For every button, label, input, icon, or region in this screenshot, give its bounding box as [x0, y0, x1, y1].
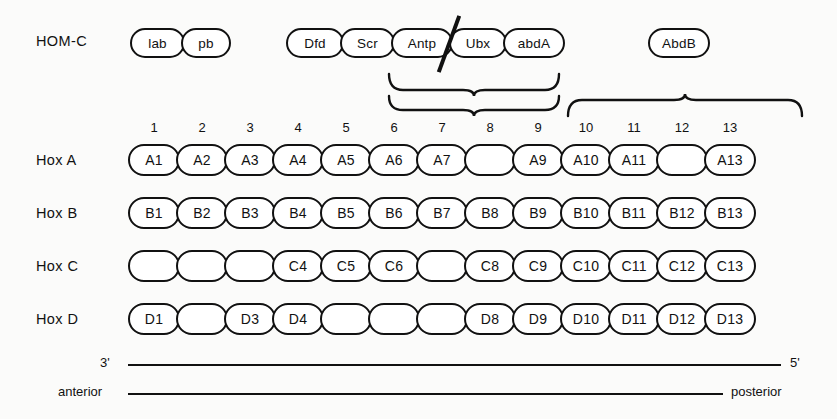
hox-c-gene-C5: C5: [320, 250, 372, 282]
hox-a-gene-A9: A9: [512, 144, 564, 176]
brace-homc-central-up: [387, 72, 562, 94]
hox-b-gene-B6: B6: [368, 197, 420, 229]
hox-d-gene-empty-5: [320, 303, 372, 335]
row-label-hoxc: Hox C: [36, 258, 78, 274]
paralog-number-11: 11: [619, 120, 649, 135]
hox-d-gene-D11: D11: [608, 303, 660, 335]
homc-gene-abda: abdA: [503, 28, 565, 58]
hox-d-row: D1D3D4D8D9D10D11D12D13: [128, 302, 752, 336]
paralog-number-5: 5: [331, 120, 361, 135]
hox-c-gene-empty-1: [128, 250, 180, 282]
hox-a-gene-A5: A5: [320, 144, 372, 176]
homc-gene-dfd: Dfd: [286, 28, 344, 58]
hox-b-gene-B1: B1: [128, 197, 180, 229]
hox-a-gene-A4: A4: [272, 144, 324, 176]
hox-c-gene-C13: C13: [704, 250, 756, 282]
hox-a-gene-A13: A13: [704, 144, 756, 176]
hox-d-gene-D1: D1: [128, 303, 180, 335]
hox-b-gene-B7: B7: [416, 197, 468, 229]
hox-d-gene-empty-6: [368, 303, 420, 335]
hox-b-gene-B9: B9: [512, 197, 564, 229]
paralog-number-9: 9: [523, 120, 553, 135]
paralog-number-13: 13: [715, 120, 745, 135]
hox-d-gene-D13: D13: [704, 303, 756, 335]
hox-c-gene-C11: C11: [608, 250, 660, 282]
paralog-number-7: 7: [427, 120, 457, 135]
hox-b-gene-B5: B5: [320, 197, 372, 229]
homc-gene-lab: lab: [130, 28, 185, 58]
paralog-number-2: 2: [187, 120, 217, 135]
hox-a-gene-empty-8: [464, 144, 516, 176]
hox-c-gene-C4: C4: [272, 250, 324, 282]
hox-b-row: B1B2B3B4B5B6B7B8B9B10B11B12B13: [128, 196, 752, 230]
row-label-homc: HOM-C: [36, 33, 87, 49]
hox-b-gene-B10: B10: [560, 197, 612, 229]
hox-d-gene-D4: D4: [272, 303, 324, 335]
axis-line-body: [128, 393, 723, 395]
paralog-number-12: 12: [667, 120, 697, 135]
hox-b-gene-B4: B4: [272, 197, 324, 229]
axis-label-posterior: posterior: [731, 384, 782, 399]
homc-group-anterior: labpb: [130, 26, 227, 60]
homc-gene-scr: Scr: [340, 28, 395, 58]
hox-a-gene-A1: A1: [128, 144, 180, 176]
paralog-number-10: 10: [571, 120, 601, 135]
hox-d-gene-D9: D9: [512, 303, 564, 335]
hox-a-gene-A6: A6: [368, 144, 420, 176]
hox-d-gene-D8: D8: [464, 303, 516, 335]
hox-a-gene-A10: A10: [560, 144, 612, 176]
hox-d-gene-D3: D3: [224, 303, 276, 335]
hox-c-gene-C10: C10: [560, 250, 612, 282]
axis-label-five-prime: 5': [790, 355, 800, 370]
hox-b-gene-B3: B3: [224, 197, 276, 229]
brace-hox-central-down: [387, 94, 562, 118]
paralog-number-3: 3: [235, 120, 265, 135]
hox-b-gene-B13: B13: [704, 197, 756, 229]
axis-label-three-prime: 3': [100, 355, 110, 370]
axis-label-anterior: anterior: [58, 384, 102, 399]
hox-d-gene-D12: D12: [656, 303, 708, 335]
hox-b-gene-B2: B2: [176, 197, 228, 229]
row-label-hoxb: Hox B: [36, 205, 78, 221]
paralog-number-6: 6: [379, 120, 409, 135]
hox-c-gene-C9: C9: [512, 250, 564, 282]
hox-d-gene-empty-7: [416, 303, 468, 335]
paralog-number-8: 8: [475, 120, 505, 135]
homc-gene-ubx: Ubx: [449, 28, 507, 58]
hox-d-gene-D10: D10: [560, 303, 612, 335]
hox-a-row: A1A2A3A4A5A6A7A9A10A11A13: [128, 143, 752, 177]
hox-cluster-diagram: HOM-C labpb DfdScrAntpUbxabdA AbdB 12345…: [0, 0, 837, 419]
hox-c-gene-empty-7: [416, 250, 468, 282]
homc-group-posterior: AbdB: [648, 26, 706, 60]
hox-c-gene-empty-3: [224, 250, 276, 282]
paralog-number-1: 1: [139, 120, 169, 135]
row-label-hoxd: Hox D: [36, 311, 78, 327]
paralog-number-4: 4: [283, 120, 313, 135]
hox-a-gene-empty-12: [656, 144, 708, 176]
hox-c-gene-C8: C8: [464, 250, 516, 282]
hox-c-row: C4C5C6C8C9C10C11C12C13: [128, 249, 752, 283]
brace-hox-posterior-down: [566, 94, 804, 118]
hox-b-gene-B11: B11: [608, 197, 660, 229]
homc-gene-abdb: AbdB: [648, 28, 710, 58]
hox-c-gene-C12: C12: [656, 250, 708, 282]
homc-gene-pb: pb: [181, 28, 231, 58]
hox-a-gene-A3: A3: [224, 144, 276, 176]
hox-c-gene-C6: C6: [368, 250, 420, 282]
hox-b-gene-B12: B12: [656, 197, 708, 229]
homc-group-central: DfdScrAntpUbxabdA: [286, 26, 561, 60]
row-label-hoxa: Hox A: [36, 152, 77, 168]
axis-line-strand: [128, 364, 781, 366]
hox-b-gene-B8: B8: [464, 197, 516, 229]
hox-a-gene-A7: A7: [416, 144, 468, 176]
hox-a-gene-A2: A2: [176, 144, 228, 176]
hox-d-gene-empty-2: [176, 303, 228, 335]
hox-c-gene-empty-2: [176, 250, 228, 282]
hox-a-gene-A11: A11: [608, 144, 660, 176]
